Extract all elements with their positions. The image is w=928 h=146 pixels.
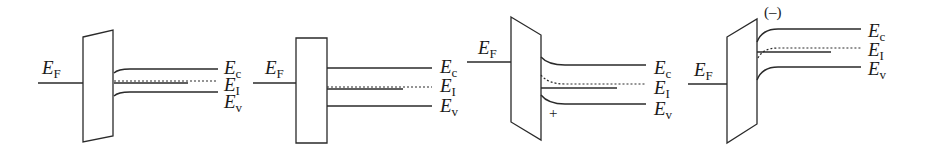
- panel-4-label-ec-symbol: E: [868, 20, 880, 41]
- panel-3-charge-marker: +: [549, 106, 557, 121]
- intrinsic-level: [541, 75, 646, 84]
- panel-1-label-ev: Ev: [224, 92, 242, 114]
- panel-2-label-ei-symbol: E: [440, 75, 452, 96]
- panel-3-label-ei: EI: [654, 78, 670, 100]
- conduction-band-edge: [114, 69, 218, 73]
- valence-band-edge: [541, 95, 646, 104]
- band-diagram-figure: EFEcEIEvEFEcEIEvEFEcEIEv+EFEcEIEv(–): [0, 0, 928, 146]
- panel-1-label-ev-symbol: E: [224, 91, 236, 112]
- panel-4-charge-marker: (–): [764, 5, 782, 20]
- panel-2-label-ev-symbol: E: [440, 95, 452, 116]
- panel-2-label-ef: EF: [265, 58, 284, 80]
- panel-4-label-ef-symbol: E: [694, 59, 706, 80]
- conduction-band-edge: [757, 29, 861, 42]
- panel-3-label-ev-symbol: E: [654, 98, 666, 119]
- panel-3-label-ei-symbol: E: [654, 77, 666, 98]
- band-diagram-canvas: [0, 0, 928, 146]
- panel-4-label-ev-subscript: v: [880, 67, 887, 82]
- panel-4-label-ev: Ev: [868, 59, 886, 81]
- insulator-layer: [296, 38, 327, 143]
- panel-4-label-ef: EF: [694, 60, 713, 82]
- panel-2-label-ef-symbol: E: [265, 57, 277, 78]
- panel-3-label-ev: Ev: [654, 99, 672, 121]
- panel-4-label-ei-symbol: E: [868, 39, 880, 60]
- panel-2: [253, 38, 432, 143]
- panel-4-label-ef-subscript: F: [706, 68, 713, 83]
- panel-1-label-ef: EF: [42, 58, 61, 80]
- panel-2-label-ec-symbol: E: [440, 56, 452, 77]
- panel-3-label-ef: EF: [478, 38, 497, 60]
- valence-band-edge: [114, 92, 218, 96]
- panel-4-label-ev-symbol: E: [868, 58, 880, 79]
- panel-3-label-ef-subscript: F: [490, 46, 497, 61]
- insulator-layer: [727, 19, 757, 143]
- insulator-layer: [511, 17, 541, 140]
- insulator-layer: [83, 30, 113, 142]
- conduction-band-edge: [541, 57, 646, 65]
- panel-1-label-ef-subscript: F: [54, 66, 61, 81]
- panel-3-label-ec-symbol: E: [654, 57, 666, 78]
- valence-band-edge: [757, 67, 861, 80]
- panel-2-label-ev-subscript: v: [452, 104, 459, 119]
- panel-4: [688, 19, 861, 143]
- panel-2-label-ef-subscript: F: [277, 66, 284, 81]
- panel-3-label-ef-symbol: E: [478, 37, 490, 58]
- intrinsic-level: [758, 48, 861, 58]
- panel-3: [467, 17, 646, 140]
- panel-1-label-ev-subscript: v: [236, 100, 243, 115]
- panel-2-label-ev: Ev: [440, 96, 458, 118]
- panel-3-label-ev-subscript: v: [666, 107, 673, 122]
- panel-1: [38, 30, 218, 142]
- panel-1-label-ef-symbol: E: [42, 57, 54, 78]
